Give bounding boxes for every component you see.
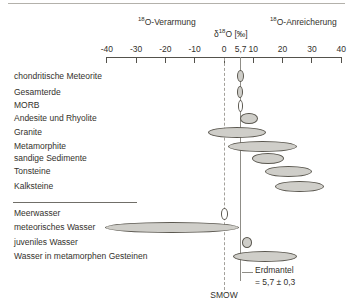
row-label: Meerwasser: [14, 208, 60, 218]
data-range-ellipse: [208, 127, 267, 138]
axis-tick-mark: [194, 58, 195, 63]
axis-tick-label: -10: [189, 44, 201, 54]
mantle-callout-value: = 5,7 ± 0,3: [255, 277, 295, 289]
axis-tick-mark: [311, 58, 312, 63]
data-range-ellipse: [233, 251, 297, 262]
axis-tick-label: -20: [159, 44, 171, 54]
superscript-18: 18: [138, 16, 145, 22]
depletion-label: O-Verarmung: [145, 17, 196, 27]
data-range-ellipse: [275, 181, 323, 192]
data-range-ellipse: [237, 70, 244, 82]
row-label: MORB: [14, 100, 40, 110]
mantle-callout-line: [242, 272, 253, 273]
axis-tick-label: 20: [278, 44, 287, 54]
row-label: juveniles Wasser: [14, 237, 78, 247]
superscript-18: 18: [270, 16, 277, 22]
row-label: meteorisches Wasser: [14, 222, 95, 232]
axis-tick-mark: [136, 58, 137, 63]
mantle-callout: Erdmantel = 5,7 ± 0,3: [255, 265, 295, 288]
data-range-ellipse: [105, 222, 238, 233]
row-label: Tonsteine: [14, 166, 50, 176]
row-label: sandige Sedimente: [14, 153, 87, 163]
data-range-ellipse: [221, 208, 228, 220]
enrichment-label: O-Anreicherung: [277, 17, 337, 27]
data-range-ellipse: [252, 153, 284, 164]
row-label: Gesamterde: [14, 87, 61, 97]
mantle-callout-title: Erdmantel: [255, 265, 295, 277]
row-label: Andesite und Rhyolite: [14, 113, 97, 123]
axis-header-depletion: 18O-Verarmung: [138, 17, 196, 27]
smow-reference-line: [224, 58, 225, 290]
axis-title: δ18O [‰]: [214, 29, 248, 39]
axis-tick-mark: [341, 58, 342, 63]
axis-tick-label: -30: [130, 44, 142, 54]
data-range-ellipse: [242, 237, 252, 248]
axis-tick-mark: [165, 58, 166, 63]
axis-tick-label: 40: [336, 44, 345, 54]
axis-tick-mark: [106, 58, 107, 63]
axis-tick-mark: [253, 58, 254, 63]
axis-unit-label: O [‰]: [225, 29, 247, 39]
axis-tick-label: 10: [249, 44, 258, 54]
group-divider-line: [13, 202, 137, 203]
row-label: Metamorphite: [14, 141, 66, 151]
figure: 18O-Verarmung δ18O [‰] 18O-Anreicherung …: [0, 0, 352, 308]
data-range-ellipse: [228, 141, 297, 152]
row-label: chondritische Meteorite: [14, 71, 102, 81]
data-range-ellipse: [237, 86, 243, 98]
axis-tick-label: 30: [307, 44, 316, 54]
data-range-ellipse: [240, 113, 258, 124]
top-border-line: [8, 3, 345, 4]
axis-tick-label: 0: [222, 44, 227, 54]
row-label: Wasser in metamorphen Gesteinen: [14, 251, 147, 261]
axis-tick-mark: [282, 58, 283, 63]
row-label: Granite: [14, 127, 42, 137]
smow-label: SMOW: [204, 290, 244, 300]
row-label: Kalksteine: [14, 181, 53, 191]
data-range-ellipse: [238, 100, 243, 112]
axis-tick-label: -40: [101, 44, 113, 54]
axis-tick-label: 5,7: [235, 44, 247, 54]
data-range-ellipse: [265, 166, 312, 177]
axis-header-enrichment: 18O-Anreicherung: [270, 17, 337, 27]
